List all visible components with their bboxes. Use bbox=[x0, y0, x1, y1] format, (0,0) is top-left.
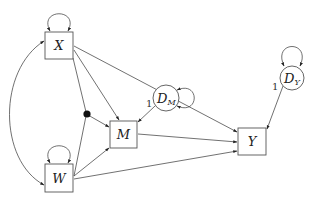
covariance-x-w bbox=[10, 41, 45, 185]
variance-loop-x bbox=[48, 14, 70, 31]
edge-dy-to-y bbox=[267, 86, 283, 129]
node-y: Y bbox=[238, 128, 266, 155]
node-x-label: X bbox=[53, 38, 64, 53]
edge-w-to-m bbox=[74, 148, 109, 176]
variance-loop-w bbox=[48, 146, 70, 163]
edge-interaction-to-m bbox=[88, 115, 109, 127]
variance-loop-dy bbox=[282, 47, 303, 67]
edge-m-to-y bbox=[138, 134, 237, 142]
node-w-label: W bbox=[52, 171, 67, 186]
path-diagram: X W M Y DM 1 DY 1 bbox=[0, 0, 314, 204]
node-dy: DY 1 bbox=[272, 66, 304, 92]
node-x: X bbox=[45, 32, 73, 59]
node-dy-main: D bbox=[283, 71, 295, 86]
node-m-label: M bbox=[116, 127, 131, 142]
node-dy-subscript: Y bbox=[294, 78, 300, 87]
node-y-label: Y bbox=[248, 134, 258, 149]
node-dm: DM 1 bbox=[146, 85, 179, 111]
interaction-node bbox=[83, 110, 90, 117]
edge-w-to-y bbox=[74, 151, 237, 179]
edge-w-to-interaction bbox=[74, 116, 86, 176]
edge-x-to-y bbox=[74, 46, 237, 132]
node-dm-main: D bbox=[156, 91, 168, 106]
node-dm-subscript: M bbox=[166, 98, 176, 107]
coef-dy: 1 bbox=[272, 81, 278, 92]
edge-x-to-m bbox=[74, 50, 119, 120]
coef-dm: 1 bbox=[146, 98, 152, 109]
node-w: W bbox=[45, 164, 73, 192]
node-m: M bbox=[110, 121, 137, 148]
